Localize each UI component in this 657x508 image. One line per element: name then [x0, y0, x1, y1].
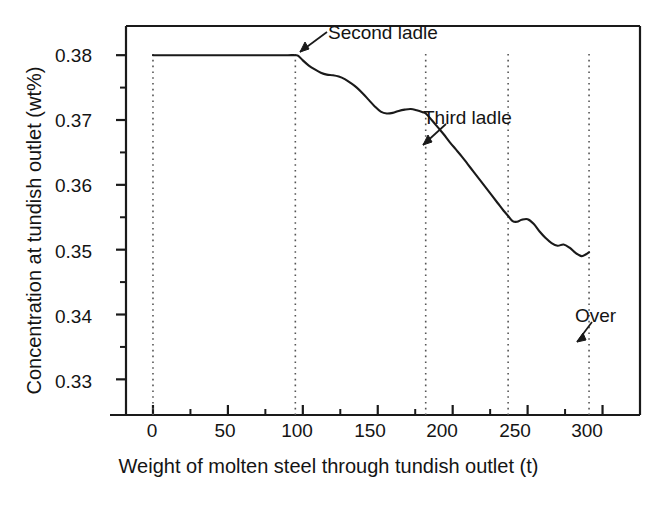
x-axis-ticks: [153, 405, 603, 415]
y-tick-label-0.33: 0.33: [22, 371, 92, 393]
x-axis-label: Weight of molten steel through tundish o…: [0, 455, 657, 478]
vertical-event-markers: [153, 54, 589, 415]
data-line: [153, 55, 589, 256]
x-tick-label-0: 0: [122, 420, 182, 442]
annotation-over: Over: [575, 305, 616, 327]
x-tick-label-100: 100: [267, 420, 327, 442]
x-tick-label-300: 300: [557, 420, 617, 442]
y-tick-label-0.38: 0.38: [22, 45, 92, 67]
y-tick-label-0.36: 0.36: [22, 175, 92, 197]
y-tick-label-0.37: 0.37: [22, 110, 92, 132]
annotation-second-ladle: Second ladle: [328, 22, 438, 44]
chart-figure: Concentration at tundish outlet (wt%) We…: [0, 0, 657, 508]
annotation-third-ladle: Third ladle: [423, 107, 512, 129]
x-tick-label-150: 150: [340, 420, 400, 442]
x-tick-label-250: 250: [485, 420, 545, 442]
data-series-group: [153, 55, 589, 256]
arrowhead-over: [577, 333, 586, 342]
arrowhead-second-ladle: [300, 42, 309, 52]
y-tick-label-0.34: 0.34: [22, 306, 92, 328]
axes-frame: [110, 26, 640, 415]
x-tick-label-50: 50: [195, 420, 255, 442]
y-axis-ticks: [116, 55, 126, 379]
y-tick-label-0.35: 0.35: [22, 241, 92, 263]
x-tick-label-200: 200: [412, 420, 472, 442]
arrowhead-third-ladle: [423, 135, 432, 145]
